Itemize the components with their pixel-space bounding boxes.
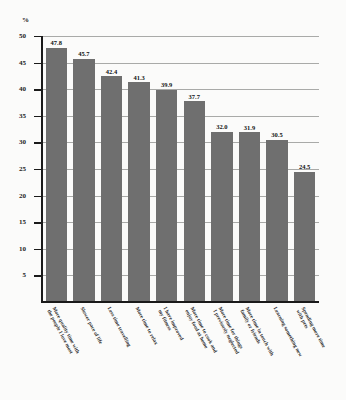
y-axis-tick-label: 45	[4, 59, 26, 67]
bar-slot: 31.9	[236, 36, 264, 302]
bar-slot: 42.4	[98, 36, 126, 302]
x-axis-category-labels: More quality time with the people I love…	[43, 304, 319, 398]
bar[interactable]: 41.3	[128, 82, 150, 302]
cat-slot: More time for things I previously neglec…	[208, 304, 236, 398]
y-axis-tick	[34, 196, 42, 197]
bar-value-label: 39.9	[161, 81, 172, 88]
cat-slot: More time to relax	[125, 304, 153, 398]
y-axis-tick	[34, 89, 42, 90]
bar[interactable]: 31.9	[239, 132, 261, 302]
y-axis-tick	[34, 63, 42, 64]
plot-area: 47.845.742.441.339.937.732.031.930.524.5	[43, 36, 319, 302]
y-axis-tick-label: 50	[4, 32, 26, 40]
bar-slot: 45.7	[70, 36, 98, 302]
y-axis-unit-label: %	[22, 16, 29, 24]
bar-slot: 39.9	[153, 36, 181, 302]
bar-value-label: 42.4	[106, 68, 117, 75]
bar-slot: 30.5	[263, 36, 291, 302]
cat-slot: Learning something new	[263, 304, 291, 398]
y-axis-tick-label: 20	[4, 192, 26, 200]
bar-value-label: 31.9	[244, 124, 255, 131]
y-axis-tick-label: 15	[4, 218, 26, 226]
bar-chart: % 5045403530252015105 47.845.742.441.339…	[0, 0, 346, 400]
y-axis-tick	[34, 142, 42, 143]
cat-slot: More time in touch with family or friend…	[236, 304, 264, 398]
bar[interactable]: 42.4	[101, 76, 123, 302]
bar-value-label: 30.5	[271, 131, 282, 138]
bar[interactable]: 37.7	[184, 101, 206, 302]
bar-value-label: 41.3	[133, 74, 144, 81]
y-axis-tick-label: 30	[4, 138, 26, 146]
y-axis-tick-label: 5	[4, 271, 26, 279]
bar[interactable]: 39.9	[156, 90, 178, 302]
bar-value-label: 47.8	[51, 39, 62, 46]
bar[interactable]: 45.7	[73, 59, 95, 302]
y-axis-tick	[34, 36, 42, 37]
bar-value-label: 24.5	[299, 163, 310, 170]
bar[interactable]: 47.8	[46, 48, 68, 302]
y-axis-tick-label: 10	[4, 245, 26, 253]
bar-value-label: 45.7	[78, 50, 89, 57]
cat-slot: I have improved my fitness	[153, 304, 181, 398]
y-axis-tick-label: 25	[4, 165, 26, 173]
cat-slot: More quality time with the people I love…	[43, 304, 71, 398]
cat-slot: Slower pace of life	[70, 304, 98, 398]
x-axis-line	[41, 301, 319, 303]
y-axis-tick	[34, 169, 42, 170]
y-axis-tick	[34, 249, 42, 250]
y-axis-tick	[34, 275, 42, 276]
y-axis-tick	[34, 116, 42, 117]
bar[interactable]: 32.0	[211, 132, 233, 302]
bar-series: 47.845.742.441.339.937.732.031.930.524.5	[43, 36, 319, 302]
cat-slot: Less time travelling	[98, 304, 126, 398]
y-axis-tick-label: 35	[4, 112, 26, 120]
cat-slot: Spending more time with pets	[291, 304, 319, 398]
bar-value-label: 37.7	[189, 93, 200, 100]
y-axis-tick-label: 40	[4, 85, 26, 93]
bar[interactable]: 24.5	[294, 172, 316, 302]
y-axis-tick	[34, 222, 42, 223]
bar-slot: 37.7	[180, 36, 208, 302]
bar-slot: 41.3	[125, 36, 153, 302]
bar-slot: 24.5	[291, 36, 319, 302]
bar-slot: 47.8	[43, 36, 71, 302]
cat-slot: More time to cook and enjoy food at home	[180, 304, 208, 398]
bar[interactable]: 30.5	[266, 140, 288, 302]
bar-slot: 32.0	[208, 36, 236, 302]
bar-value-label: 32.0	[216, 123, 227, 130]
x-axis-category-label: Spending more time with pets	[295, 306, 346, 392]
